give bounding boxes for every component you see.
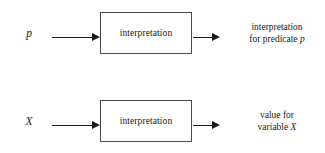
interpretation-box-predicate: interpretation [100,12,192,54]
arrow-shaft [52,37,93,38]
arrow-head [92,33,100,41]
output-label-line-2-symbol: p [300,34,305,44]
interpretation-box-label: interpretation [120,116,173,127]
arrow-shaft [193,125,213,126]
interpretation-box-label: interpretation [120,28,173,39]
interpretation-box-variable: interpretation [100,100,192,142]
arrow-head [212,33,220,41]
output-arrow-icon-variable [193,121,220,130]
arrow-shaft [52,125,93,126]
input-arrow-icon-predicate [52,33,100,42]
output-label-line-2: for predicate p [231,34,323,46]
output-label-line-2-text: variable [258,122,291,132]
diagram-row-variable: X interpretation value for variable X [0,94,325,153]
output-label-line-2-text: for predicate [249,34,300,44]
output-label-line-2-symbol: X [291,122,297,132]
input-label-variable: X [12,115,46,127]
arrow-head [212,121,220,129]
output-label-line-1: value for [231,110,323,122]
output-label-variable: value for variable X [231,110,323,133]
input-arrow-icon-variable [52,121,100,130]
output-label-predicate: interpretation for predicate p [231,22,323,45]
arrow-head [92,121,100,129]
arrow-shaft [193,37,213,38]
output-label-line-2: variable X [231,122,323,134]
interpretation-diagram: p interpretation interpretation for pred… [0,0,325,153]
diagram-row-predicate: p interpretation interpretation for pred… [0,6,325,68]
output-label-line-1: interpretation [231,22,323,34]
input-label-predicate: p [12,27,46,39]
output-arrow-icon-predicate [193,33,220,42]
